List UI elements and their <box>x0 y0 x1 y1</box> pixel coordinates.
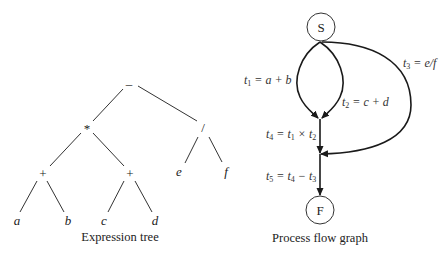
edge-t1 <box>297 42 320 118</box>
tree-edge-div-e <box>185 137 198 163</box>
tree-leaf-d: d <box>152 213 159 228</box>
edge-label-t4: t4 = t1 × t2 <box>266 127 316 142</box>
start-node: S <box>307 13 335 41</box>
tree-edge-div-f <box>209 137 222 162</box>
edge-label-t5: t5 = t4 − t3 <box>266 169 316 184</box>
tree-edge-plusright-c <box>108 181 124 212</box>
diagram-canvas: – * / + + e f a b c d Expression tree S … <box>0 0 447 254</box>
expression-tree: – * / + + e f a b c d Expression tree <box>14 76 230 244</box>
tree-node-multiply: * <box>84 121 91 136</box>
tree-node-divide: / <box>201 120 205 135</box>
process-flow-graph: S F t1 = a + b t2 = c + d t3 = e/f t4 = … <box>244 13 438 245</box>
edge-label-t1: t1 = a + b <box>244 73 292 88</box>
finish-node: F <box>306 196 334 224</box>
tree-edge-plusright-d <box>135 181 152 212</box>
tree-node-minus: – <box>125 76 133 91</box>
finish-node-label: F <box>316 203 323 218</box>
edge-label-t2: t2 = c + d <box>342 95 390 110</box>
expression-tree-caption: Expression tree <box>81 230 159 244</box>
edge-t2 <box>320 42 343 118</box>
tree-edge-plusleft-a <box>20 181 37 212</box>
tree-leaf-c: c <box>101 213 107 228</box>
tree-node-plus-right: + <box>126 166 133 181</box>
tree-edge-root-div <box>138 86 197 121</box>
tree-edge-mul-plusright <box>93 133 124 166</box>
start-node-label: S <box>317 20 324 35</box>
tree-leaf-a: a <box>14 213 21 228</box>
tree-edge-mul-plusleft <box>50 133 81 166</box>
tree-leaf-b: b <box>65 213 72 228</box>
tree-edge-root-mul <box>93 89 123 121</box>
edge-label-t3: t3 = e/f <box>403 56 438 71</box>
process-flow-graph-caption: Process flow graph <box>272 231 369 245</box>
tree-leaf-e: e <box>176 164 182 179</box>
tree-node-plus-left: + <box>39 166 46 181</box>
tree-leaf-f: f <box>224 164 230 179</box>
tree-edge-plusleft-b <box>47 181 64 212</box>
